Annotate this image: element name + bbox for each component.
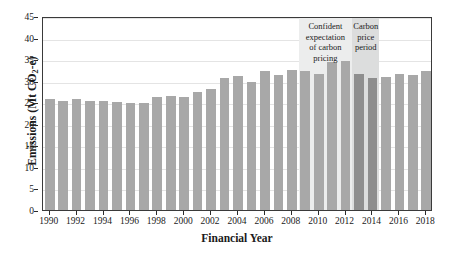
x-tick-mark (318, 211, 319, 215)
bar (260, 71, 270, 210)
bar (341, 61, 351, 210)
bar (152, 97, 162, 210)
band-label-line: period (352, 42, 379, 53)
bar (287, 70, 297, 210)
x-tick-mark (291, 211, 292, 215)
y-tick-mark (34, 125, 38, 126)
band-label-line: of carbon (299, 42, 353, 53)
bar (247, 82, 257, 210)
bar (193, 92, 203, 210)
bar (99, 101, 109, 210)
bar (354, 74, 364, 210)
emissions-bar-chart: Emissions (Mt CO2-e) 051015202530354045 … (0, 0, 454, 260)
y-tick-mark (34, 103, 38, 104)
y-tick-mark (34, 39, 38, 40)
band-label-line: pricing (299, 53, 353, 64)
x-tick-mark (371, 211, 372, 215)
x-tick-mark (76, 211, 77, 215)
x-tick-mark (49, 211, 50, 215)
y-tick-label: 25 (14, 98, 34, 108)
y-tick-label: 20 (14, 120, 34, 130)
y-tick-mark (34, 60, 38, 61)
x-tick-mark (129, 211, 130, 215)
x-tick-mark (264, 211, 265, 215)
bar (85, 101, 95, 211)
bar (45, 99, 55, 210)
plot-area: Confidentexpectationof carbonpricingCarb… (42, 17, 432, 211)
x-tick-mark (156, 211, 157, 215)
bar (112, 102, 122, 210)
bar (408, 75, 418, 210)
bar (314, 74, 324, 210)
bar (421, 71, 431, 210)
bar (58, 101, 68, 210)
y-tick-mark (34, 189, 38, 190)
bar (300, 71, 310, 210)
bar (179, 97, 189, 210)
y-tick-label: 30 (14, 77, 34, 87)
bar (327, 62, 337, 210)
bar (139, 103, 149, 210)
y-tick-mark (34, 17, 38, 18)
y-tick-mark (34, 211, 38, 212)
y-tick-label: 40 (14, 34, 34, 44)
confident-expectation-band-label: Confidentexpectationof carbonpricing (299, 21, 353, 63)
y-tick-label: 5 (14, 184, 34, 194)
y-tick-label: 10 (14, 163, 34, 173)
y-tick-label: 15 (14, 141, 34, 151)
bar (126, 103, 136, 210)
bar (368, 78, 378, 210)
y-tick-label: 0 (14, 206, 34, 216)
y-axis-ticks: 051015202530354045 (12, 0, 34, 260)
bar (72, 99, 82, 210)
x-axis-title: Financial Year (42, 232, 432, 244)
x-tick-mark (183, 211, 184, 215)
bar (274, 75, 284, 210)
y-tick-mark (34, 146, 38, 147)
bar (220, 78, 230, 210)
y-tick-label: 45 (14, 12, 34, 22)
y-tick-mark (34, 168, 38, 169)
x-tick-mark (398, 211, 399, 215)
x-tick-mark (210, 211, 211, 215)
bar (395, 74, 405, 210)
y-tick-label: 35 (14, 55, 34, 65)
band-label-line: price (352, 32, 379, 43)
bar (381, 77, 391, 210)
bar (206, 89, 216, 210)
band-label-line: expectation (299, 32, 353, 43)
y-tick-mark (34, 82, 38, 83)
x-tick-mark (103, 211, 104, 215)
x-tick-mark (237, 211, 238, 215)
x-tick-label: 2018 (408, 216, 442, 226)
band-label-line: Carbon (352, 21, 379, 32)
bar (233, 76, 243, 210)
band-label-line: Confident (299, 21, 353, 32)
carbon-price-period-band-label: Carbonpriceperiod (352, 21, 379, 53)
x-tick-mark (345, 211, 346, 215)
bar (166, 96, 176, 210)
x-tick-mark (425, 211, 426, 215)
